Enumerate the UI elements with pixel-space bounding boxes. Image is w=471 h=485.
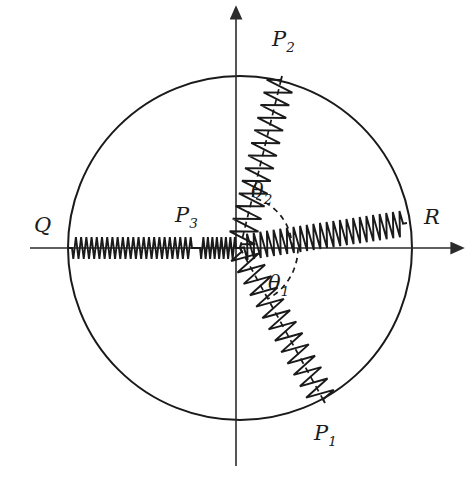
label-p1-main: P <box>313 421 329 445</box>
label-p1-subscript: 1 <box>328 433 337 449</box>
label-theta-1-main: θ <box>268 271 281 295</box>
label-p3-main: P <box>174 203 190 227</box>
spring-q-to-p3 <box>68 237 196 259</box>
label-theta-2-main: θ <box>251 179 264 203</box>
label-theta-1: θ1 <box>268 271 289 299</box>
label-r: R <box>423 205 440 229</box>
label-theta-1-subscript: 1 <box>281 283 290 299</box>
label-p2-subscript: 2 <box>285 39 295 55</box>
label-p2-main: P <box>271 27 287 51</box>
label-r-main: R <box>423 205 440 229</box>
spring-system-figure: Q R P1 P2 P3 θ1 θ2 <box>0 0 471 485</box>
spring-origin-to-p2 <box>230 76 293 248</box>
spring-origin-to-p1 <box>231 248 334 403</box>
label-q-main: Q <box>34 213 51 237</box>
label-q: Q <box>34 213 51 237</box>
label-p2: P2 <box>271 27 295 55</box>
label-theta-2: θ2 <box>251 179 272 207</box>
figure-canvas: Q R P1 P2 P3 θ1 θ2 <box>0 0 471 485</box>
spring-p3-to-origin <box>196 237 240 259</box>
label-p3: P3 <box>174 203 198 231</box>
label-theta-2-subscript: 2 <box>263 191 273 207</box>
label-p3-subscript: 3 <box>189 215 198 231</box>
spring-origin-to-r <box>240 211 407 260</box>
label-p1: P1 <box>313 421 337 449</box>
